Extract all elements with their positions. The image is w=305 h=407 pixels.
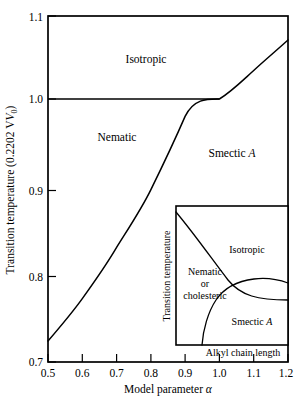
x-tick-label-1.1: 1.1 bbox=[247, 367, 262, 379]
x-tick-label-0.5: 0.5 bbox=[41, 367, 56, 379]
x-tick-label-1.0: 1.0 bbox=[212, 367, 227, 379]
region-label-smectic-phase: A bbox=[247, 147, 256, 159]
inset-region-label-smectic-text: Smectic bbox=[232, 316, 267, 327]
y-tick-label-1.1: 1.1 bbox=[29, 11, 44, 23]
y-tick-label-1.0: 1.0 bbox=[29, 93, 44, 105]
x-axis-title-text: Model parameter bbox=[124, 383, 206, 396]
x-axis-title-symbol: α bbox=[206, 383, 213, 395]
inset-region-label-nematic-line1: Nematic bbox=[188, 266, 222, 277]
phase-diagram-figure: 1.1 1.0 0.9 0.8 0.7 0.5 0.6 0.7 0.8 0.9 … bbox=[0, 0, 305, 407]
inset-x-axis-title: Alkyl chain length bbox=[206, 347, 280, 358]
inset-y-axis-title: Transition temperature bbox=[161, 230, 172, 322]
inset-region-label-nematic-line2: or bbox=[201, 278, 210, 289]
x-tick-label-0.9: 0.9 bbox=[178, 367, 193, 379]
region-label-smectic-text: Smectic bbox=[209, 147, 249, 159]
y-tick-label-0.8: 0.8 bbox=[29, 271, 44, 283]
x-tick-label-0.8: 0.8 bbox=[144, 367, 159, 379]
region-label-nematic: Nematic bbox=[98, 131, 137, 143]
inset-plot: Isotropic Nematic or cholesteric Smectic… bbox=[161, 206, 288, 358]
inset-region-label-isotropic: Isotropic bbox=[229, 244, 265, 255]
inset-region-label-smectic-phase: A bbox=[265, 316, 273, 327]
region-label-isotropic: Isotropic bbox=[126, 53, 167, 66]
inset-region-label-smectic-a: Smectic A bbox=[232, 316, 274, 327]
y-axis-title: Transition temperature (0.2202 VV0) bbox=[4, 105, 19, 274]
region-label-smectic-a: Smectic A bbox=[209, 147, 257, 159]
y-tick-label-0.9: 0.9 bbox=[29, 185, 44, 197]
x-tick-label-0.7: 0.7 bbox=[109, 367, 124, 379]
y-axis-title-close: ) bbox=[4, 105, 17, 109]
x-axis-title: Model parameter α bbox=[124, 383, 213, 396]
x-tick-label-1.2: 1.2 bbox=[279, 367, 294, 379]
y-axis-ticks bbox=[48, 16, 56, 362]
figure-container: 1.1 1.0 0.9 0.8 0.7 0.5 0.6 0.7 0.8 0.9 … bbox=[0, 0, 305, 407]
inset-region-label-nematic-line3: cholesteric bbox=[183, 290, 227, 301]
y-axis-title-text: Transition temperature (0.2202 V bbox=[4, 120, 17, 275]
x-tick-label-0.6: 0.6 bbox=[75, 367, 90, 379]
